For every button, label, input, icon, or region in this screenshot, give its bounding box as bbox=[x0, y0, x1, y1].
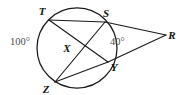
segment-TS bbox=[49, 20, 105, 22]
geometry-figure: T S Y Z X R 100° 40° bbox=[0, 0, 181, 95]
vertex-label-T: T bbox=[39, 5, 47, 17]
vertex-label-S: S bbox=[103, 7, 109, 19]
arc-measure-label-100: 100° bbox=[10, 36, 30, 47]
vertex-label-Z: Z bbox=[42, 83, 50, 95]
segment-TY bbox=[49, 20, 108, 62]
vertex-label-X: X bbox=[62, 42, 71, 54]
geometry-canvas: T S Y Z X R 100° 40° bbox=[0, 0, 181, 95]
vertex-label-R: R bbox=[167, 29, 175, 41]
vertex-label-Y: Y bbox=[111, 61, 119, 73]
angle-measure-label-40: 40° bbox=[110, 36, 125, 47]
